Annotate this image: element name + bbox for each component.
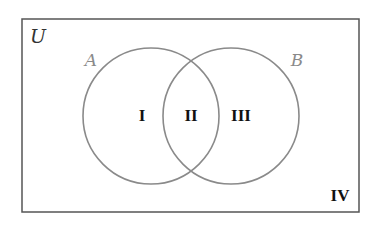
set-a-circle [83, 48, 219, 184]
region-iv-label: IV [331, 186, 351, 205]
venn-diagram: U A B I II III IV [0, 0, 379, 230]
set-a-label: A [83, 50, 97, 70]
region-ii-label: II [184, 106, 198, 125]
venn-canvas: U A B I II III IV [0, 0, 379, 230]
region-i-label: I [139, 106, 146, 125]
set-b-label: B [290, 50, 304, 70]
region-iii-label: III [231, 106, 251, 125]
universe-label: U [30, 25, 47, 47]
